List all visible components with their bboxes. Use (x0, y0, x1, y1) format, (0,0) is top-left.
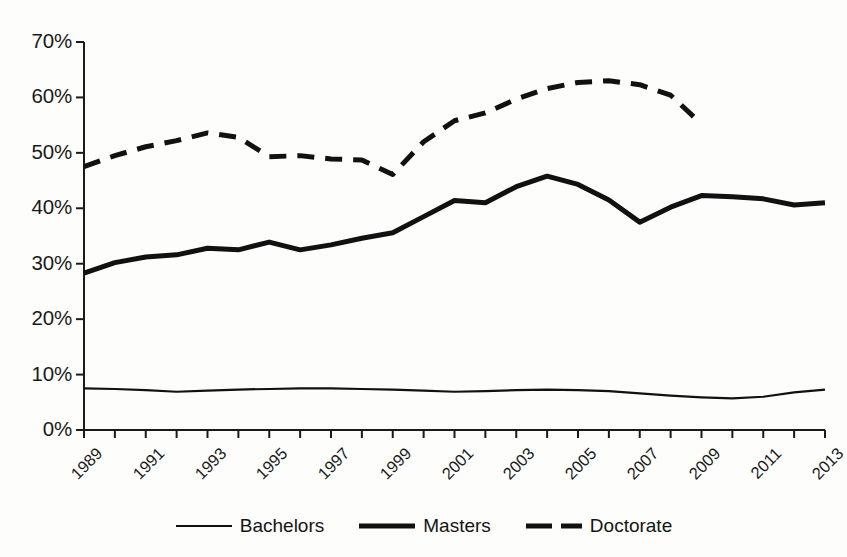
y-axis-tick-label: 70% (0, 29, 72, 53)
y-axis-tick-label: 60% (0, 84, 72, 108)
y-axis-tick-label: 30% (0, 251, 72, 275)
series-line-doctorate (84, 81, 702, 175)
legend-swatch-bachelors-icon (175, 519, 233, 533)
legend-item-masters[interactable]: Masters (358, 515, 491, 537)
legend-item-bachelors[interactable]: Bachelors (175, 515, 325, 537)
axes (76, 42, 825, 438)
series-line-masters (84, 176, 825, 273)
legend-label: Doctorate (590, 515, 672, 537)
y-axis-tick-label: 10% (0, 362, 72, 386)
data-series-group (84, 81, 825, 399)
legend-swatch-masters-icon (358, 519, 416, 533)
legend-item-doctorate[interactable]: Doctorate (525, 515, 672, 537)
x-axis-ticks (84, 430, 825, 438)
series-line-bachelors (84, 388, 825, 398)
legend-label: Bachelors (240, 515, 325, 537)
y-axis-tick-label: 40% (0, 195, 72, 219)
chart-legend: BachelorsMastersDoctorate (0, 515, 847, 537)
y-axis-tick-label: 20% (0, 306, 72, 330)
legend-swatch-doctorate-icon (525, 519, 583, 533)
y-axis-tick-label: 0% (0, 417, 72, 441)
y-axis-tick-label: 50% (0, 140, 72, 164)
y-axis-ticks (76, 42, 84, 430)
chart-container: 0%10%20%30%40%50%60%70% 1989199119931995… (0, 0, 847, 557)
legend-label: Masters (423, 515, 491, 537)
